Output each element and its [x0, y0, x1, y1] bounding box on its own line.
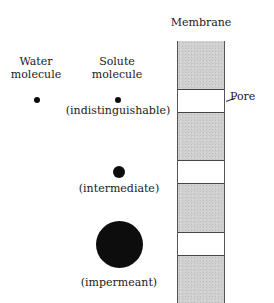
membrane-segment [178, 41, 224, 89]
water-molecule-label: Water molecule [5, 55, 67, 81]
membrane-segment [178, 184, 224, 232]
water-molecule-dot [34, 97, 40, 103]
intermediate-label: (intermediate) [74, 182, 164, 195]
water-label-line2: molecule [5, 68, 67, 81]
membrane-segment [178, 113, 224, 160]
solute-molecule-label: Solute molecule [86, 55, 148, 81]
pore [178, 232, 224, 256]
pore [178, 160, 224, 184]
membrane [177, 41, 225, 303]
indistinguishable-label: (indistinguishable) [62, 104, 174, 117]
solute-impermeant-dot [96, 221, 143, 268]
pore [178, 89, 224, 113]
membrane-segment [178, 256, 224, 303]
water-label-line1: Water [5, 55, 67, 68]
solute-intermediate-dot [113, 166, 125, 178]
impermeant-label: (impermeant) [78, 276, 160, 289]
solute-indistinguishable-dot [115, 97, 121, 103]
membrane-title: Membrane [170, 16, 232, 29]
solute-label-line1: Solute [86, 55, 148, 68]
pore-label: Pore [230, 90, 260, 103]
solute-label-line2: molecule [86, 68, 148, 81]
